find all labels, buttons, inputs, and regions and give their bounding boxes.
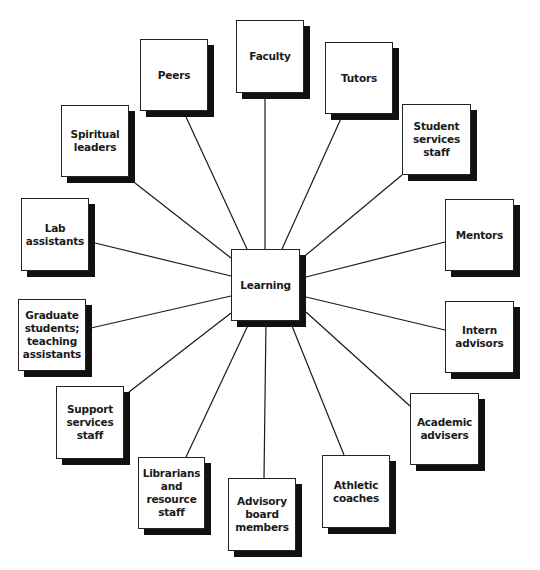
center-node-label: Learning <box>240 279 291 292</box>
node-label: Lab assistants <box>26 222 84 248</box>
node-advisory-board: Advisory board members <box>228 478 296 551</box>
node-label: Peers <box>158 69 190 82</box>
connector-athletic-coaches <box>290 321 344 455</box>
connector-lab-assistants <box>95 243 231 276</box>
connector-spiritual-leaders <box>135 183 231 258</box>
node-label: Athletic coaches <box>333 479 379 505</box>
connector-intern-advisors <box>306 297 445 330</box>
node-label: Mentors <box>456 229 503 242</box>
connector-graduate-students <box>91 296 231 328</box>
center-node-learning: Learning <box>231 249 300 321</box>
node-graduate-students: Graduate students; teaching assistants <box>18 299 86 371</box>
node-faculty: Faculty <box>236 20 304 93</box>
node-student-services: Student services staff <box>402 104 471 175</box>
node-intern-advisors: Intern advisors <box>445 301 514 373</box>
node-peers: Peers <box>140 39 208 111</box>
node-athletic-coaches: Athletic coaches <box>322 455 390 528</box>
node-label: Academic advisers <box>417 416 472 442</box>
node-label: Tutors <box>341 72 377 85</box>
node-support-services: Support services staff <box>56 386 124 459</box>
connector-peers <box>186 117 247 249</box>
support-network-diagram: Learning FacultyTutorsStudent services s… <box>0 0 540 570</box>
node-mentors: Mentors <box>445 199 514 271</box>
connector-librarians <box>186 321 250 457</box>
node-label: Intern advisors <box>455 324 503 350</box>
node-label: Advisory board members <box>235 495 289 534</box>
node-academic-advisers: Academic advisers <box>410 393 479 465</box>
node-tutors: Tutors <box>325 42 393 114</box>
node-label: Librarians and resource staff <box>143 467 201 519</box>
node-spiritual-leaders: Spiritual leaders <box>61 105 129 177</box>
node-label: Student services staff <box>413 120 460 159</box>
node-librarians: Librarians and resource staff <box>138 457 205 529</box>
connector-support-services <box>129 313 231 392</box>
node-label: Support services staff <box>67 403 114 442</box>
node-label: Faculty <box>249 50 290 63</box>
node-lab-assistants: Lab assistants <box>21 198 89 271</box>
connector-student-services <box>300 175 402 260</box>
connector-mentors <box>306 242 445 277</box>
connector-advisory-board <box>264 321 266 478</box>
node-label: Graduate students; teaching assistants <box>23 309 81 361</box>
connector-academic-advisers <box>306 312 410 406</box>
node-label: Spiritual leaders <box>71 128 120 154</box>
connector-tutors <box>282 114 343 249</box>
